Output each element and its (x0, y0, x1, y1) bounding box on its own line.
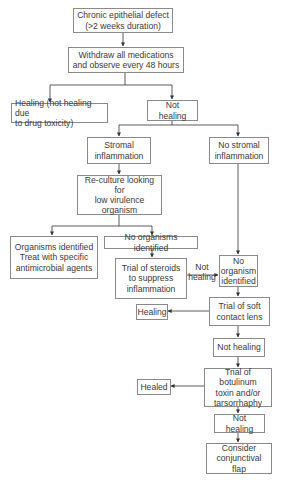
node-healing-drug-toxicity: Healing (not healing due to drug toxicit… (11, 103, 108, 123)
node-text: Not healing (151, 100, 194, 120)
node-text: Stromal inflammation (95, 140, 144, 160)
node-trial-botulinum: Trial of botulinum toxin and/or tarsorrh… (204, 368, 272, 407)
node-text: No stromal inflammation (215, 140, 264, 160)
node-text: Not healing (217, 342, 260, 352)
node-reculture: Re-culture looking for low virulence org… (77, 175, 162, 215)
node-healed: Healed (137, 379, 171, 395)
node-not-healing-1: Not healing (147, 100, 198, 121)
node-text: Chronic epithelial defect (>2 weeks dura… (77, 10, 169, 30)
node-text: No organisms identified (108, 232, 194, 252)
node-text: Withdraw all medications and observe eve… (73, 50, 180, 70)
node-stromal-inflammation: Stromal inflammation (87, 137, 151, 164)
node-consider-conjunctival-flap: Consider conjunctival flap (206, 443, 272, 474)
node-text: Healed (140, 382, 167, 392)
node-no-organism-identified: No organism identified (219, 255, 258, 287)
node-text: Consider conjunctival flap (210, 443, 268, 474)
node-text: Trial of steroids to suppress inflammati… (122, 263, 180, 294)
node-trial-of-steroids: Trial of steroids to suppress inflammati… (115, 258, 187, 299)
node-healing-2: Healing (136, 304, 168, 320)
node-text: Trial of botulinum toxin and/or tarsorrh… (208, 367, 268, 408)
node-text: Not healing (218, 413, 261, 433)
node-text: Healing (not healing due to drug toxicit… (15, 98, 104, 129)
node-trial-soft-contact-lens: Trial of soft contact lens (209, 297, 270, 326)
node-chronic-epithelial-defect: Chronic epithelial defect (>2 weeks dura… (73, 8, 173, 33)
node-text: Healing (137, 307, 166, 317)
node-no-stromal-inflammation: No stromal inflammation (209, 137, 269, 164)
node-text: Organisms identified Treat with specific… (15, 242, 93, 273)
node-text: Trial of soft contact lens (217, 301, 263, 321)
node-text: No organism identified (221, 256, 256, 287)
node-no-organisms-identified: No organisms identified (104, 236, 198, 249)
node-organisms-identified: Organisms identified Treat with specific… (10, 236, 98, 279)
node-not-healing-3: Not healing (214, 414, 265, 433)
node-not-healing-2: Not healing (213, 338, 265, 357)
node-text: Re-culture looking for low virulence org… (81, 175, 158, 216)
edge-label-not-healing: Not healing (187, 262, 217, 282)
node-withdraw-medications: Withdraw all medications and observe eve… (68, 47, 184, 73)
